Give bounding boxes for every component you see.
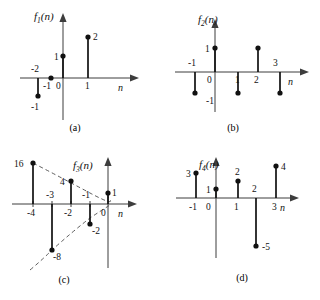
panel-c-caption: (c): [44, 274, 84, 285]
tick-label-0: 0: [56, 81, 61, 91]
panel-d-caption: (d): [222, 272, 262, 283]
stem-dot: [30, 160, 35, 165]
function-label: f1(n): [34, 10, 54, 25]
panel-b: f2(n) n -1 3 0 1 2 1 -1 (b): [160, 0, 320, 150]
tick-label-minus1: -1: [189, 202, 197, 212]
tick-label-minus1: -1: [43, 81, 51, 91]
x-axis-arrow-icon: [300, 68, 309, 75]
tick-label-minus2: -2: [31, 64, 39, 74]
value-label-16: 16: [14, 159, 24, 169]
stem-dot: [192, 90, 197, 95]
tick-label-1: 1: [85, 81, 90, 91]
tick-label-minus4: -4: [27, 208, 35, 218]
tick-label-1: 1: [235, 75, 240, 85]
x-axis-label: n: [288, 76, 293, 87]
value-label-1: 1: [206, 185, 211, 195]
tick-label-0: 0: [101, 208, 106, 218]
value-label-minus1: -1: [31, 102, 39, 112]
value-label-1: 1: [205, 44, 210, 54]
panel-c: f3(n) n -3 -1 -4 -2 0 16 4 1 -2 -8 (c): [0, 148, 168, 300]
stem-plot-figure: f1(n) n -2 -1 0 1 1 2 -1 (a): [0, 0, 320, 300]
value-label-4: 4: [281, 162, 286, 172]
y-axis-arrow-icon: [104, 157, 111, 166]
tick-label-minus1: -1: [188, 58, 196, 68]
stem-dot: [193, 170, 198, 175]
panel-a-caption: (a): [55, 122, 95, 133]
tick-label-minus3: -3: [46, 190, 54, 200]
tick-label-minus2: -2: [64, 208, 72, 218]
stem-dot: [273, 163, 278, 168]
stem-dot: [105, 190, 110, 195]
value-label-4: 4: [60, 177, 65, 187]
panel-b-caption: (b): [213, 122, 253, 133]
stem-dot: [212, 45, 217, 50]
tick-label-2: 2: [254, 75, 259, 85]
stem-dot: [48, 75, 53, 80]
x-axis-label: n: [118, 208, 123, 219]
x-axis-label: n: [280, 202, 285, 213]
value-label-minus5: -5: [262, 242, 270, 252]
tick-label-minus1: -1: [82, 190, 90, 200]
x-axis-label: n: [118, 82, 123, 93]
tick-label-3: 3: [273, 58, 278, 68]
panel-c-plot: f3(n) n -3 -1 -4 -2 0 16 4 1 -2 -8: [0, 148, 168, 300]
value-label-1: 1: [112, 188, 117, 198]
tick-label-2: 2: [252, 184, 257, 194]
tick-label-0: 0: [207, 75, 212, 85]
value-label-2: 2: [235, 167, 240, 177]
function-label: f3(n): [73, 159, 93, 174]
value-label-3: 3: [186, 169, 191, 179]
stem-dot: [213, 186, 218, 191]
panel-a: f1(n) n -2 -1 0 1 1 2 -1 (a): [0, 0, 160, 150]
value-label-2: 2: [93, 32, 98, 42]
stem-dot: [60, 53, 65, 58]
stem-dot: [85, 34, 90, 39]
stem-dot: [255, 45, 260, 50]
stem-dot: [235, 178, 240, 183]
x-axis-arrow-icon: [290, 194, 299, 201]
value-label-minus2: -2: [92, 226, 100, 236]
tick-label-1: 1: [234, 202, 239, 212]
stem-dot: [68, 178, 73, 183]
y-axis-arrow-icon: [59, 13, 66, 22]
stem-dot: [277, 90, 282, 95]
value-label-minus1: -1: [206, 96, 214, 106]
tick-label-3: 3: [272, 202, 277, 212]
stem-dot: [253, 243, 258, 248]
x-axis-arrow-icon: [130, 74, 139, 81]
value-label-1: 1: [54, 52, 59, 62]
tick-label-0: 0: [206, 202, 211, 212]
stem-dot: [235, 90, 240, 95]
x-axis-arrow-icon: [128, 200, 137, 207]
value-label-minus8: -8: [53, 252, 61, 262]
panel-d: f4(n) n 2 -1 0 1 3 3 1 2 4 -5 (d): [168, 148, 320, 300]
stem-dot: [35, 93, 40, 98]
